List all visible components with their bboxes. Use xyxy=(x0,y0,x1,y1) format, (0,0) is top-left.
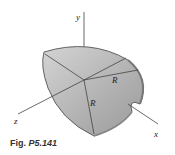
x-axis xyxy=(128,104,158,124)
radius-label: R xyxy=(111,75,118,85)
caption-number: P5.141 xyxy=(29,138,58,148)
radius-label: R xyxy=(89,98,96,108)
x-axis-label: x xyxy=(153,129,158,139)
figure-diagram: y z x R R xyxy=(0,0,175,155)
figure-caption: Fig. P5.141 xyxy=(10,138,57,148)
y-axis-label: y xyxy=(75,12,80,22)
caption-prefix: Fig. xyxy=(10,138,26,148)
z-axis-label: z xyxy=(13,116,18,126)
